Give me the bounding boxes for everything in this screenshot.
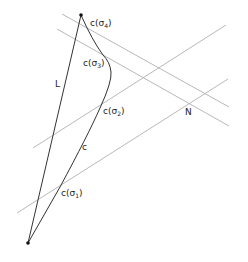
ascending-line-2 xyxy=(17,79,228,213)
label-c: c xyxy=(82,142,87,152)
curve-diagram: L c N c(σ4) c(σ3) c(σ2) c(σ1) xyxy=(0,0,248,262)
curve-c xyxy=(28,15,111,243)
bottom-point xyxy=(26,241,30,245)
label-L: L xyxy=(55,79,60,89)
line-L xyxy=(28,15,81,243)
label-c-sigma3: c(σ3) xyxy=(83,58,105,69)
top-point xyxy=(79,13,83,17)
label-c-sigma4: c(σ4) xyxy=(90,18,112,29)
ascending-line-1 xyxy=(33,25,226,148)
label-c-sigma1: c(σ1) xyxy=(61,188,83,199)
label-c-sigma2: c(σ2) xyxy=(103,106,125,117)
label-N: N xyxy=(185,107,192,117)
